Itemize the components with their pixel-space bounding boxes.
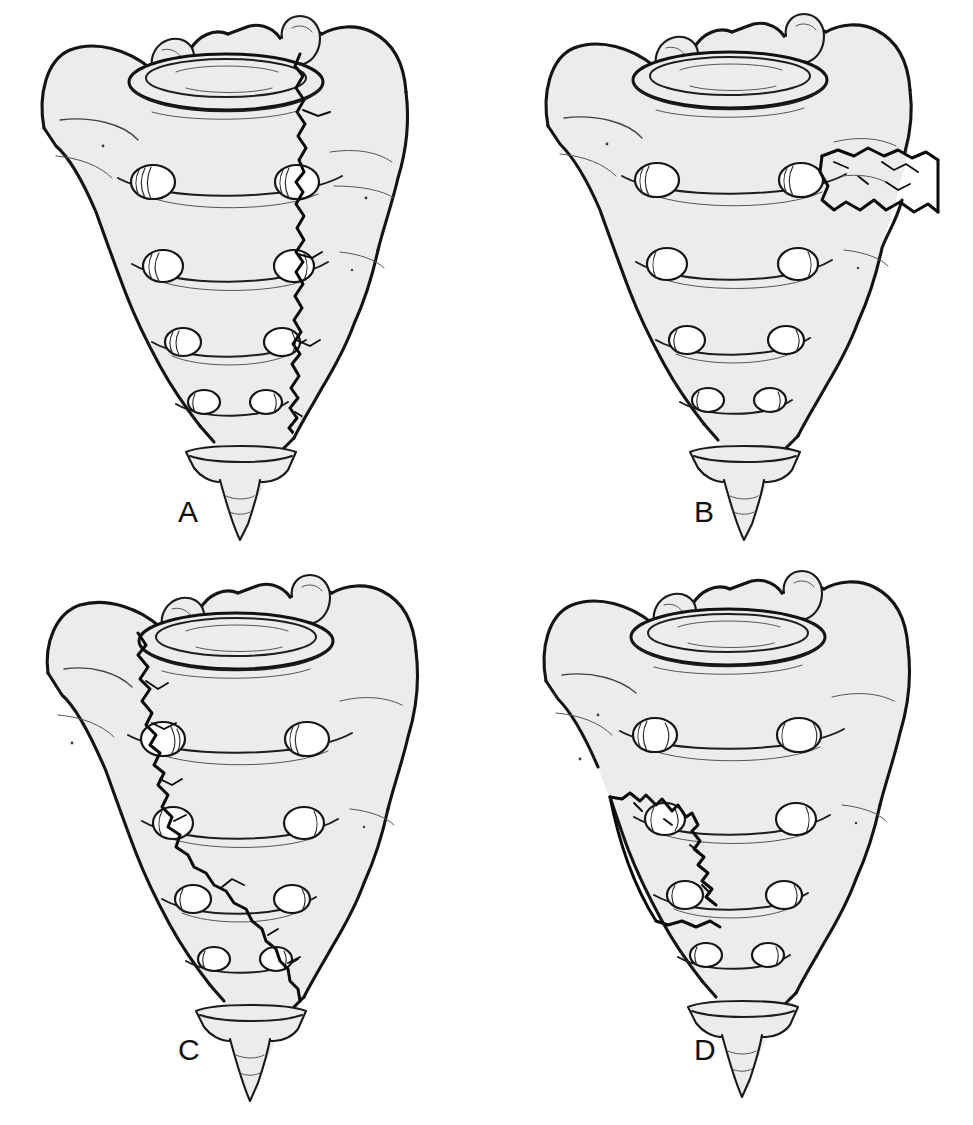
panel-label-a: A <box>178 497 198 527</box>
panel-b-sacrum-lateral-ala-fracture: B <box>486 0 973 562</box>
panel-c-sacrum-oblique-fracture: C <box>0 563 487 1125</box>
figure-root: A <box>0 0 973 1125</box>
coccyx-a <box>186 446 296 540</box>
panel-label-b: B <box>694 497 714 527</box>
panel-a-sacrum-transforaminal-fracture: A <box>0 0 487 562</box>
coccyx-c <box>196 1005 306 1101</box>
panel-label-c: C <box>178 1035 200 1065</box>
panel-d-sacrum-lateral-margin-fracture: D <box>486 563 973 1125</box>
panel-label-d: D <box>694 1035 716 1065</box>
